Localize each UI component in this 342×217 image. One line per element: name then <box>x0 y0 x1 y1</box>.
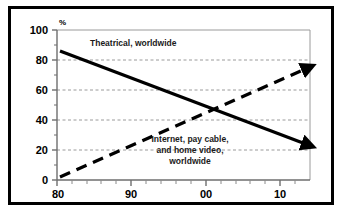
y-tick-label-100: 100 <box>30 24 48 36</box>
x-tick-label-90: 90 <box>125 188 137 200</box>
line-chart-svg: 100 80 60 40 20 0 % 80 90 00 10 Theatric… <box>0 0 342 217</box>
y-tick-label-0: 0 <box>42 174 48 186</box>
y-axis-unit-label: % <box>59 18 66 27</box>
chart-figure: 100 80 60 40 20 0 % 80 90 00 10 Theatric… <box>0 0 342 217</box>
y-tick-label-80: 80 <box>36 54 48 66</box>
chart-plot-wrapper: 100 80 60 40 20 0 % 80 90 00 10 Theatric… <box>0 0 342 217</box>
annotation-internet-line-2: and home video, <box>156 145 223 155</box>
annotation-internet-line-3: worldwide <box>168 156 211 166</box>
x-tick-label-10: 10 <box>274 188 286 200</box>
y-tick-label-20: 20 <box>36 144 48 156</box>
y-tick-label-60: 60 <box>36 84 48 96</box>
x-tick-label-00: 00 <box>200 188 212 200</box>
annotation-theatrical-worldwide: Theatrical, worldwide <box>90 38 177 48</box>
annotation-internet-line-1: Internet, pay cable, <box>152 134 229 144</box>
y-tick-label-40: 40 <box>36 114 48 126</box>
x-tick-label-80: 80 <box>52 188 64 200</box>
x-axis-ticks <box>57 180 280 186</box>
